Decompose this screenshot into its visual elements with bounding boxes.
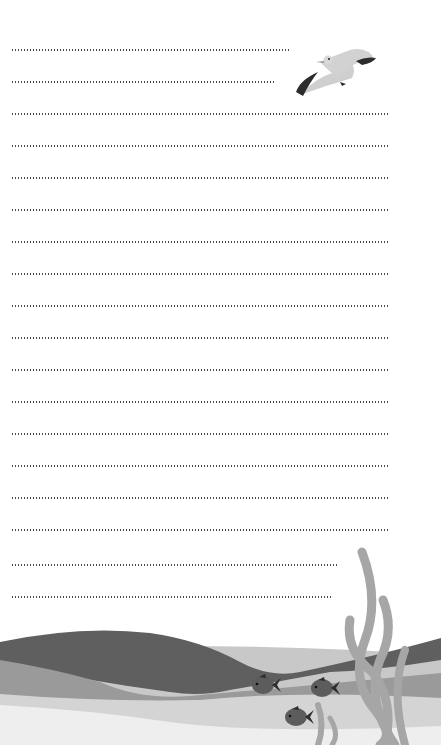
writing-line [11, 564, 338, 566]
writing-line [11, 401, 389, 403]
wave-dark [0, 630, 441, 694]
writing-line [11, 337, 389, 339]
writing-line [11, 433, 389, 435]
writing-line [11, 209, 389, 211]
writing-line [11, 177, 389, 179]
writing-line [11, 49, 291, 51]
wave-light [0, 694, 441, 745]
wave-sand [0, 705, 441, 745]
writing-line [11, 369, 389, 371]
seagull-icon [296, 49, 376, 96]
writing-line [11, 596, 333, 598]
fish-icon [252, 674, 281, 694]
wave-mid [0, 660, 441, 708]
writing-line [11, 241, 389, 243]
writing-line [11, 497, 389, 499]
writing-line [11, 273, 389, 275]
writing-line [11, 113, 389, 115]
writing-line [11, 145, 389, 147]
fish-icon [285, 706, 314, 726]
writing-line [11, 305, 389, 307]
wave-back [0, 646, 441, 745]
seaweed-icon [318, 552, 405, 745]
writing-line [11, 465, 389, 467]
ocean-scene [0, 0, 441, 745]
fish-icon [311, 677, 340, 697]
writing-line [11, 529, 389, 531]
writing-line [11, 81, 276, 83]
